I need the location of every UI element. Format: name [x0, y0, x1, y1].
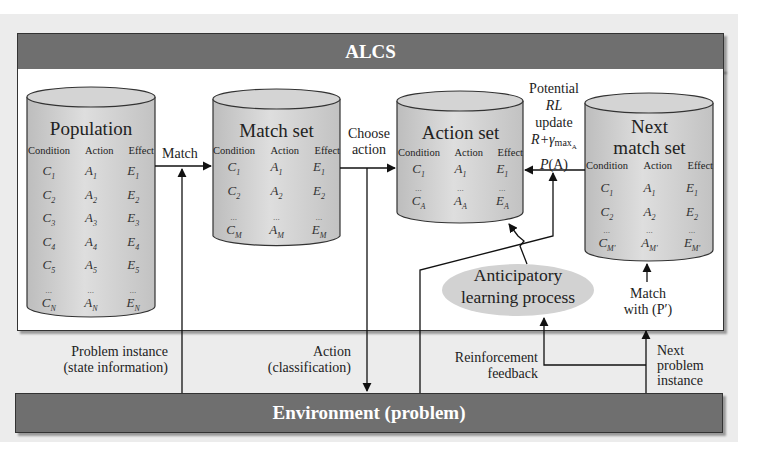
action-set-column-headers: Condition Action Effect — [398, 147, 523, 158]
population-ellipsis-row: ......... — [28, 286, 154, 294]
problem-instance-label: Problem instance (state information) — [20, 344, 168, 376]
column-effect: Effect — [129, 145, 154, 156]
rl-formula: R+γmaxA — [522, 131, 586, 156]
population-title: Population — [28, 118, 154, 139]
next-match-set-title-2: match set — [586, 137, 713, 158]
action-set-last-row: CAAAEA — [398, 192, 523, 216]
population-row: C4A4E4 — [28, 233, 154, 257]
next-match-set-row: C2A2E2 — [586, 203, 713, 227]
population-row: C5A5E5 — [28, 256, 154, 280]
match-set-last-row: CMAMEM — [213, 221, 340, 245]
column-condition: Condition — [28, 145, 70, 156]
match-set-title: Match set — [213, 120, 340, 141]
next-match-set-last-row: CM'AM'EM' — [586, 234, 713, 258]
population-row: C2A2E2 — [28, 186, 154, 210]
action-classification-label: Action (classification) — [240, 344, 351, 376]
action-set-title: Action set — [398, 122, 523, 143]
match-set-row: C2A2E2 — [213, 182, 340, 206]
next-match-set-row: C1A1E1 — [586, 179, 713, 203]
next-match-set-column-headers: Condition Action Effect — [586, 160, 713, 171]
match-set-row: C1A1E1 — [213, 158, 340, 182]
population-row: C3A3E3 — [28, 209, 154, 233]
population-row: C1A1E1 — [28, 162, 154, 186]
alp-label: Anticipatory learning process — [443, 264, 593, 308]
action-set-ellipsis-row: ......... — [398, 184, 523, 192]
reinforcement-feedback-arrow — [544, 318, 646, 365]
column-action: Action — [85, 145, 114, 156]
match-set-column-headers: Condition Action Effect — [213, 145, 340, 156]
next-match-set-content: Next match set Condition Action Effect C… — [586, 116, 713, 258]
action-set-content: Action set Condition Action Effect C1A1E… — [398, 122, 523, 215]
rl-update-label: Potential RL update R+γmaxA P(A) — [522, 80, 586, 173]
choose-action-label: Choose action — [341, 126, 397, 158]
match-set-ellipsis-row: ......... — [213, 213, 340, 221]
match-with-label: Match with (P′) — [616, 286, 680, 318]
population-last-row: CNANEN — [28, 294, 154, 318]
match-label: Match — [162, 146, 198, 162]
next-problem-instance-label: Next problem instance — [657, 343, 704, 388]
reinforcement-feedback-label: Reinforcement feedback — [420, 350, 538, 382]
next-match-set-title-1: Next — [586, 116, 713, 137]
match-set-content: Match set Condition Action Effect C1A1E1… — [213, 120, 340, 245]
population-content: Population Condition Action Effect C1A1E… — [28, 118, 154, 318]
next-match-set-ellipsis-row: ......... — [586, 226, 713, 234]
population-column-headers: Condition Action Effect — [28, 145, 154, 156]
action-set-row: C1A1E1 — [398, 160, 523, 184]
rl-probability: P(A) — [522, 156, 586, 173]
